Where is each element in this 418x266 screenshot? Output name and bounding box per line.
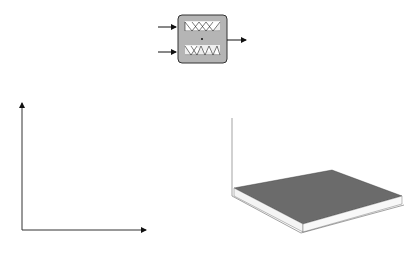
panel-b-grid-partition: [0, 0, 146, 230]
figure-canvas: [0, 0, 418, 266]
membership-functions-x1-icon: [185, 21, 220, 32]
panel-c-surface-plot: [232, 118, 404, 233]
surface-floor: [234, 170, 402, 224]
membership-functions-x2-icon: [185, 45, 220, 56]
product-operator-icon: [201, 38, 203, 40]
panel-a-block-diagram: [0, 0, 246, 63]
